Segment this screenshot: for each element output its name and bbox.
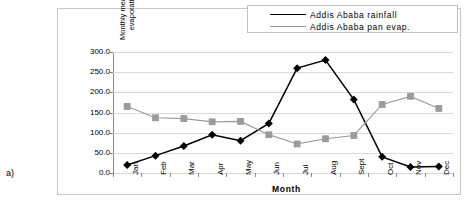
- diamond-marker-icon: [378, 153, 386, 161]
- x-tick-mark: [453, 173, 454, 177]
- diamond-marker-icon: [237, 137, 245, 145]
- plot-area: 300.0250.0200.0150.0100.050.00.0: [113, 52, 453, 173]
- x-tick-label: Mar: [187, 161, 196, 175]
- square-marker-icon: [322, 135, 329, 142]
- legend-label-pan-evap: Addis Ababa pan evap.: [306, 22, 410, 32]
- series-line: [127, 60, 439, 167]
- figure-panel: a) Addis Ababa rainfall Addis Ababa pan …: [0, 0, 468, 203]
- square-marker-icon: [379, 101, 386, 108]
- legend-label-rainfall: Addis Ababa rainfall: [306, 10, 397, 20]
- figure-panel-label: a): [6, 168, 14, 178]
- x-tick-label: Jun: [272, 162, 281, 175]
- diamond-marker-icon: [265, 119, 273, 127]
- legend-line-rainfall: [270, 14, 306, 15]
- y-tick-label: 250.0: [64, 68, 110, 76]
- y-tick-label: 50.0: [64, 149, 110, 157]
- square-marker-icon: [237, 118, 244, 125]
- y-tick-label: 100.0: [64, 129, 110, 137]
- x-tick-label: Jan: [131, 162, 140, 175]
- legend-item-rainfall: Addis Ababa rainfall: [270, 9, 457, 20]
- legend-key-rainfall: [270, 9, 306, 20]
- legend-item-pan-evap: Addis Ababa pan evap.: [270, 21, 457, 32]
- diamond-marker-icon: [180, 142, 188, 150]
- diamond-marker-icon: [123, 161, 131, 169]
- series-rainfall: [123, 56, 443, 171]
- x-tick-label: Dec: [442, 161, 451, 175]
- square-marker-icon: [294, 141, 301, 148]
- x-tick-label: Sept: [357, 159, 366, 175]
- x-tick-label: Apr: [216, 163, 225, 175]
- chart-legend: Addis Ababa rainfall Addis Ababa pan eva…: [247, 5, 458, 33]
- square-marker-icon: [435, 105, 442, 112]
- diamond-marker-icon: [293, 64, 301, 72]
- square-marker-icon: [152, 114, 159, 121]
- series-line: [127, 96, 439, 144]
- y-tick-label: 300.0: [64, 48, 110, 56]
- y-tick-label: 200.0: [64, 88, 110, 96]
- square-marker-icon: [180, 115, 187, 122]
- square-marker-icon: [209, 118, 216, 125]
- x-tick-label: Nov: [414, 161, 423, 175]
- x-tick-label: Aug: [329, 161, 338, 175]
- chart-frame: Addis Ababa rainfall Addis Ababa pan eva…: [57, 8, 461, 195]
- series-layer: [113, 52, 453, 173]
- y-tick-label: 150.0: [64, 109, 110, 117]
- diamond-marker-icon: [152, 152, 160, 160]
- square-marker-icon: [265, 131, 272, 138]
- y-tick-label: 0.0: [64, 169, 110, 177]
- legend-key-pan-evap: [270, 21, 306, 32]
- y-axis-title: Monthly mean rainfall/pan evaporation (i…: [119, 0, 133, 57]
- square-marker-icon: [350, 132, 357, 139]
- x-tick-label: Feb: [159, 161, 168, 175]
- x-tick-label: Oct: [386, 163, 395, 175]
- legend-line-pan-evap: [270, 26, 306, 27]
- x-tick-label: Jul: [301, 165, 310, 175]
- series-pan-evap: [124, 93, 442, 147]
- x-axis-title: Month: [272, 184, 301, 194]
- square-marker-icon: [124, 103, 131, 110]
- square-marker-icon: [407, 93, 414, 100]
- y-axis-title-line2: evaporation (in mm): [128, 0, 137, 57]
- x-tick-label: May: [244, 160, 253, 175]
- diamond-marker-icon: [208, 131, 216, 139]
